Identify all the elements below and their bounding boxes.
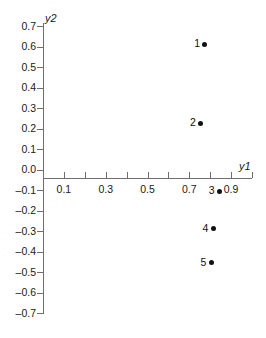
y-axis-tick-label: 0.4	[0, 82, 36, 93]
x-axis-title: y1	[239, 160, 251, 172]
y-axis-tick-label: 0.0	[0, 164, 36, 175]
y-axis-tick	[37, 88, 43, 89]
y-axis-tick	[37, 313, 43, 314]
x-axis-tick-label: 0.5	[133, 184, 163, 195]
x-axis-line	[43, 178, 252, 179]
y-axis-tick	[37, 211, 43, 212]
y-axis-tick-label: 0.5	[0, 62, 36, 73]
y-axis-tick-label: –0.3	[0, 226, 36, 237]
y-axis-title: y2	[45, 12, 57, 24]
x-axis-tick	[64, 172, 65, 178]
y-axis-tick-label: –0.7	[0, 308, 36, 319]
x-axis-tick	[210, 172, 211, 178]
x-axis-tick-label: 0.3	[91, 184, 121, 195]
x-axis-tick	[148, 172, 149, 178]
y-axis-tick	[37, 272, 43, 273]
data-point	[202, 42, 207, 47]
y-axis-tick-label: 0.1	[0, 144, 36, 155]
data-point	[217, 189, 222, 194]
y-axis-tick-label: –0.2	[0, 205, 36, 216]
y-axis-tick	[37, 149, 43, 150]
y-axis-tick	[37, 129, 43, 130]
y-axis-tick-label: 0.3	[0, 103, 36, 114]
y-axis-tick	[37, 67, 43, 68]
scatter-plot: y2 y1 0.70.60.50.40.30.20.10.0–0.1–0.2–0…	[0, 0, 266, 338]
x-axis-tick	[189, 172, 190, 178]
x-axis-tick-label: 0.1	[49, 184, 79, 195]
y-axis-tick-label: 0.7	[0, 21, 36, 32]
data-point-label: 3	[195, 185, 215, 196]
y-axis-tick	[37, 231, 43, 232]
y-axis-line	[43, 23, 44, 314]
x-axis-tick	[231, 172, 232, 178]
x-axis-tick	[85, 172, 86, 178]
x-axis-tick	[106, 172, 107, 178]
data-point	[209, 260, 214, 265]
x-axis-tick	[43, 172, 44, 178]
y-axis-tick-label: –0.4	[0, 246, 36, 257]
x-axis-tick	[168, 172, 169, 178]
data-point-label: 1	[180, 38, 200, 49]
x-axis-tick	[252, 172, 253, 178]
y-axis-tick	[37, 293, 43, 294]
y-axis-tick	[37, 190, 43, 191]
y-axis-tick	[37, 47, 43, 48]
y-axis-tick-label: –0.1	[0, 185, 36, 196]
data-point-label: 5	[186, 257, 206, 268]
data-point	[198, 121, 203, 126]
data-point-label: 4	[188, 223, 208, 234]
y-axis-tick	[37, 252, 43, 253]
y-axis-tick	[37, 26, 43, 27]
data-point	[211, 226, 216, 231]
y-axis-tick	[37, 108, 43, 109]
y-axis-tick-label: –0.5	[0, 267, 36, 278]
data-point-label: 2	[176, 117, 196, 128]
y-axis-tick-label: 0.2	[0, 123, 36, 134]
y-axis-tick-label: –0.6	[0, 287, 36, 298]
y-axis-tick	[37, 170, 43, 171]
y-axis-tick-label: 0.6	[0, 41, 36, 52]
x-axis-tick	[127, 172, 128, 178]
